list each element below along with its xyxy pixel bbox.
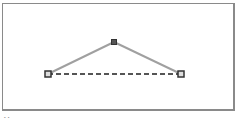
edge-apex-right[interactable] [114,42,181,74]
handle-apex[interactable] [112,40,117,45]
caption-text: ·· [3,112,10,118]
handle-right[interactable] [178,71,184,77]
triangle-diagram [0,0,236,118]
edge-left-apex[interactable] [48,42,114,74]
handle-left[interactable] [45,71,51,77]
